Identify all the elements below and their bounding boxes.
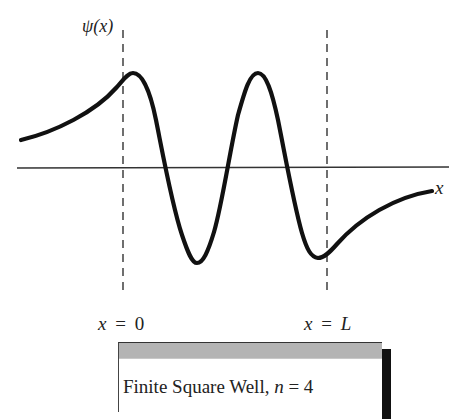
caption-box: Finite Square Well, n = 4 — [118, 342, 382, 412]
left-boundary-label: x = 0 — [97, 313, 144, 334]
right-boundary-label: x = L — [303, 313, 351, 334]
caption-suffix: = 4 — [284, 376, 314, 397]
caption-variable: n — [274, 376, 284, 397]
caption-title: Finite Square Well, n = 4 — [123, 376, 313, 398]
x-axis-label: x — [434, 177, 444, 198]
x-axis — [17, 167, 449, 168]
caption-header-band — [119, 343, 382, 359]
caption-prefix: Finite Square Well, — [123, 376, 274, 397]
caption-box-shadow — [382, 349, 391, 419]
y-axis-label: ψ(x) — [82, 16, 113, 37]
